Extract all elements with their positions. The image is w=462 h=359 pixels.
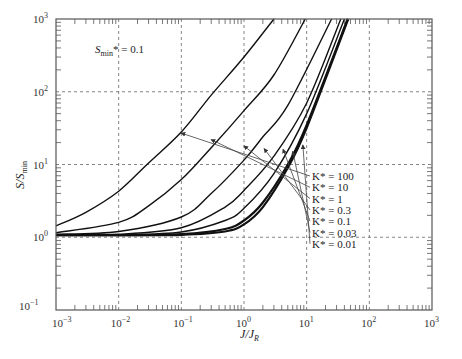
legend-entry: K* = 100 bbox=[312, 170, 354, 182]
legend-entry: K* = 0.01 bbox=[312, 238, 356, 250]
grid-lines bbox=[56, 19, 432, 310]
legend-entry: K* = 0.3 bbox=[312, 204, 351, 216]
smin-annotation: Smin* = 0.1 bbox=[95, 43, 144, 58]
x-axis-label: J/JR bbox=[240, 327, 259, 343]
y-tick-label: 10−1 bbox=[19, 298, 39, 312]
x-tick-label: 101 bbox=[299, 315, 314, 329]
legend-entry: K* = 0.03 bbox=[312, 227, 357, 239]
x-tick-label: 10−2 bbox=[111, 315, 131, 329]
legend-entry: K* = 1 bbox=[312, 193, 343, 205]
series-curve bbox=[56, 19, 274, 226]
log-log-chart: 10−310−210−1100101102103 10−110010110210… bbox=[0, 0, 462, 359]
y-tick-label: 102 bbox=[33, 84, 48, 98]
x-tick-label: 10−3 bbox=[52, 315, 72, 329]
legend-arrow bbox=[293, 151, 310, 232]
y-tick-label: 103 bbox=[33, 11, 48, 25]
y-tick-label: 101 bbox=[33, 157, 48, 171]
x-tick-label: 103 bbox=[424, 315, 439, 329]
legend-entry: K* = 0.1 bbox=[312, 215, 351, 227]
y-axis-label: S/Smin bbox=[13, 161, 29, 189]
y-tick-label: 100 bbox=[33, 229, 48, 243]
x-tick-label: 102 bbox=[361, 315, 376, 329]
legend-entry: K* = 10 bbox=[312, 181, 349, 193]
legend: K* = 100K* = 10K* = 1K* = 0.3K* = 0.1K* … bbox=[312, 170, 357, 250]
legend-arrow bbox=[244, 146, 310, 199]
x-tick-label: 10−1 bbox=[173, 315, 193, 329]
